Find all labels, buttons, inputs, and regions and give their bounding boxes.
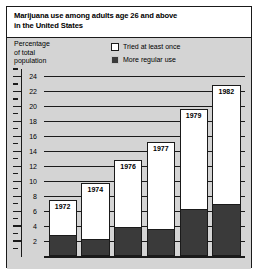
plot-area: 197219741976197719791982 246810121416182… [7,69,251,269]
bar-1976: 1976 [114,160,142,256]
bar-year-label-1979: 1979 [181,112,207,119]
y-tick-minor [13,83,18,84]
y-tick-minor [13,113,18,114]
filled-square-icon [111,56,119,64]
y-tick-label: 2 [19,238,37,245]
bar-year-label-1974: 1974 [82,186,108,193]
y-tick-minor [13,233,18,234]
bar-segment-regular-use-1979 [181,209,207,255]
bar-segment-regular-use-1982 [213,204,239,255]
y-tick-label: 16 [19,133,37,140]
chart-title-line-2: in the United States [14,21,245,31]
y-tick-label: 24 [19,73,37,80]
chart-title: Marijuana use among adults age 26 and ab… [7,7,251,38]
y-tick-minor [13,188,18,189]
y-axis-label-line-3: population [14,57,50,66]
y-tick-minor [13,218,18,219]
bar-1977: 1977 [147,142,175,256]
bars-and-gridlines: 197219741976197719791982 [44,69,245,258]
legend-label-tried: Tried at least once [123,43,180,50]
y-tick-minor [13,128,18,129]
y-tick-label: 12 [19,163,37,170]
y-tick-minor [13,143,18,144]
y-axis-label-line-1: Percentage [14,40,50,49]
legend-label-regular: More regular use [123,56,176,63]
bar-segment-regular-use-1977 [148,229,174,255]
legend-band: Percentage of total population Tried at … [7,38,251,69]
bar-segment-regular-use-1976 [115,227,141,255]
y-tick-minor [13,98,18,99]
legend-item-regular: More regular use [111,54,180,65]
y-tick-minor [13,248,18,249]
open-square-icon [111,43,119,51]
bar-year-label-1976: 1976 [115,163,141,170]
y-tick-label: 8 [19,193,37,200]
chart-title-line-1: Marijuana use among adults age 26 and ab… [14,11,245,21]
y-tick-label: 18 [19,118,37,125]
plot-footer [7,258,251,269]
gridline [44,76,245,77]
bar-1972: 1972 [49,200,77,256]
y-tick-label: 20 [19,103,37,110]
y-tick-label: 10 [19,178,37,185]
bar-year-label-1972: 1972 [50,203,76,210]
bar-year-label-1977: 1977 [148,145,174,152]
legend-item-tried: Tried at least once [111,41,180,52]
bar-1974: 1974 [81,183,109,256]
y-tick-label: 14 [19,148,37,155]
bar-1982: 1982 [212,85,240,256]
bar-segment-regular-use-1972 [50,235,76,255]
chart-legend: Tried at least once More regular use [111,41,180,67]
y-tick-label: 22 [19,88,37,95]
y-tick-minor [13,173,18,174]
y-axis-label: Percentage of total population [14,40,50,66]
y-tick-minor [13,68,18,69]
y-axis-label-line-2: of total [14,49,50,58]
bar-1979: 1979 [180,109,208,256]
bar-year-label-1982: 1982 [213,88,239,95]
y-tick-label: 6 [19,208,37,215]
y-tick-label: 4 [19,223,37,230]
y-tick-minor [13,158,18,159]
chart-figure: Marijuana use among adults age 26 and ab… [6,6,252,268]
bar-segment-regular-use-1974 [82,239,108,255]
y-tick-minor [13,203,18,204]
